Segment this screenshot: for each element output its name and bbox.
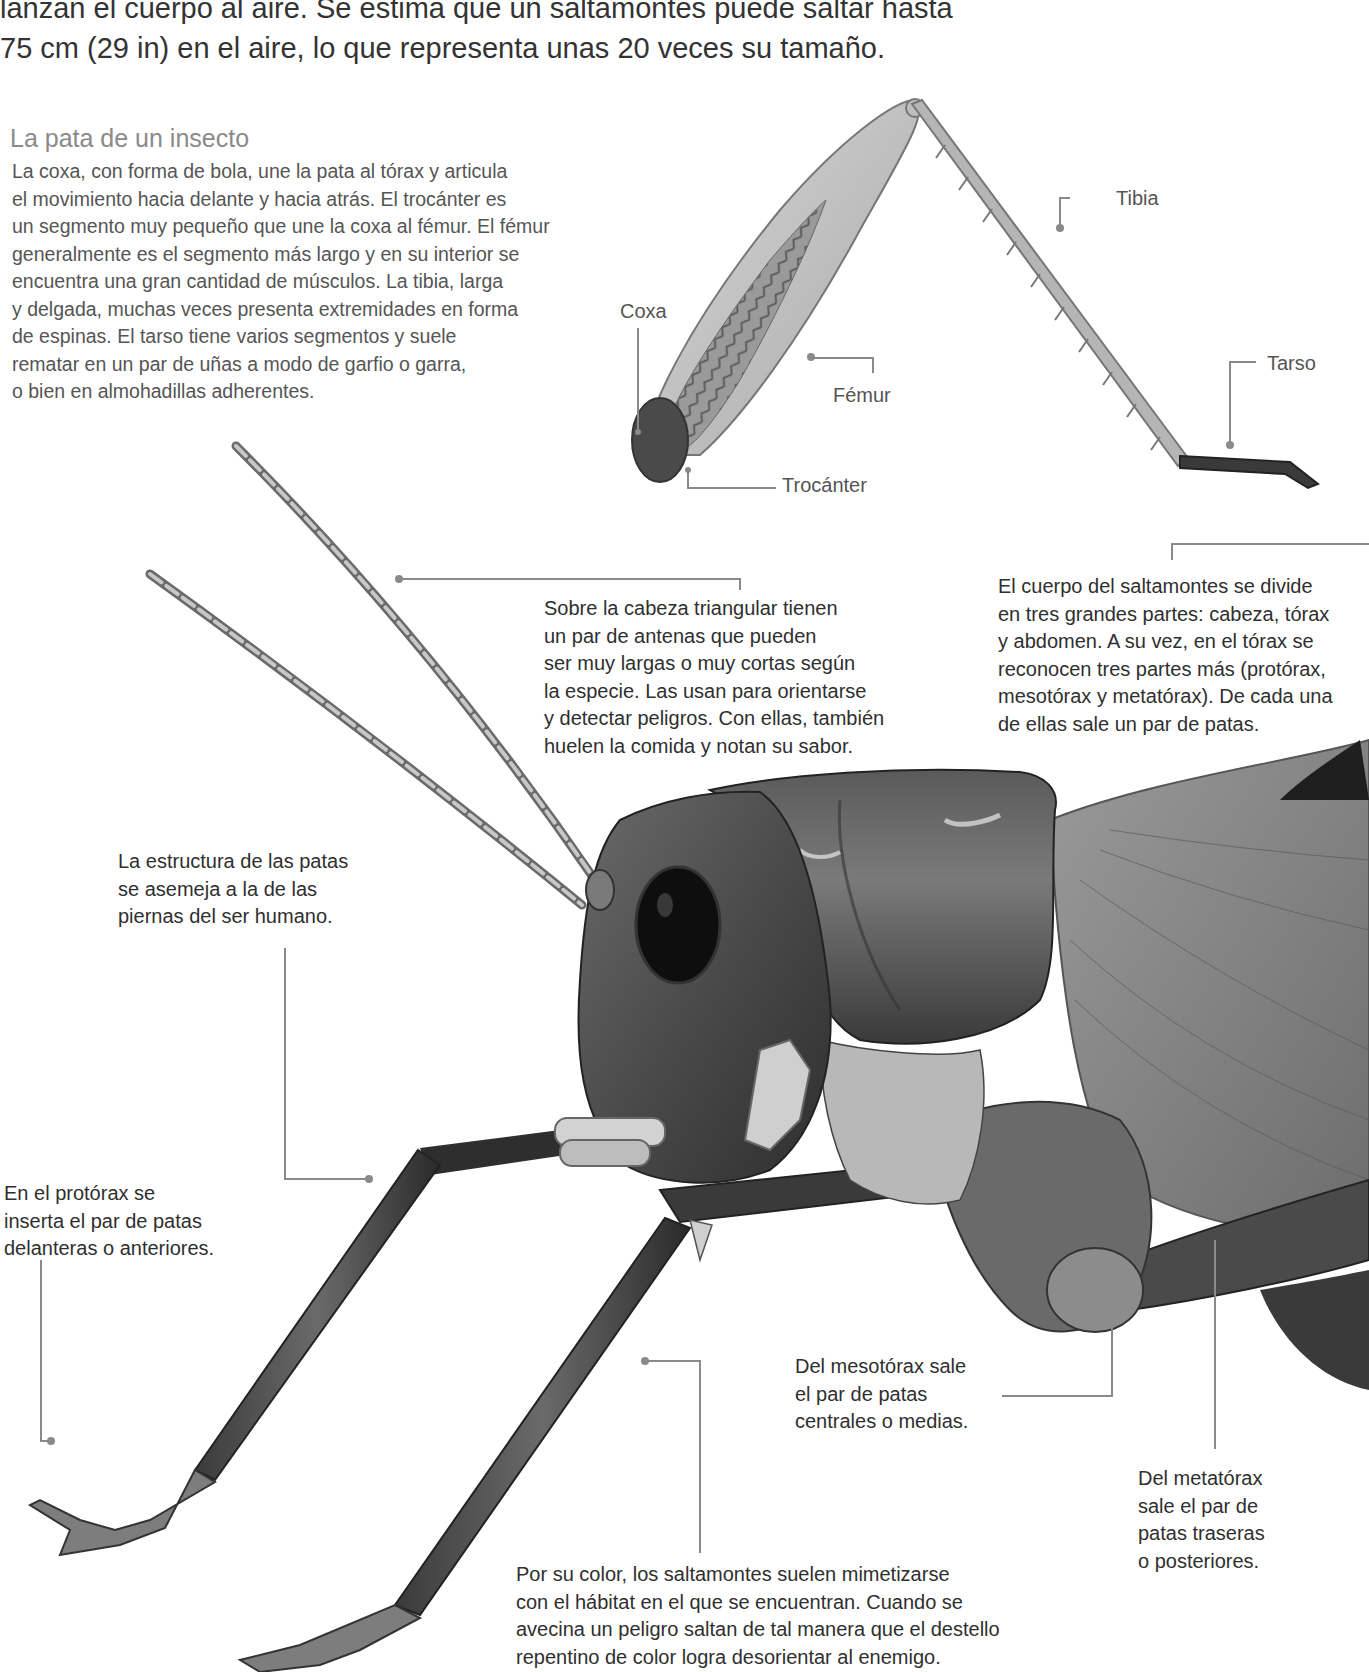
label-femur: Fémur xyxy=(833,384,891,407)
caption-mesotorax: Del mesotórax sale el par de patas centr… xyxy=(795,1353,968,1436)
leg-section-title: La pata de un insecto xyxy=(10,124,249,153)
antennae xyxy=(150,446,595,905)
caption-antenas: Sobre la cabeza triangular tienen un par… xyxy=(544,595,884,760)
caption-metatorax: Del metatórax sale el par de patas trase… xyxy=(1138,1465,1265,1575)
caption-cuerpo: El cuerpo del saltamontes se divide en t… xyxy=(998,573,1333,738)
caption-protorax: En el protórax se inserta el par de pata… xyxy=(4,1180,214,1263)
compound-eye xyxy=(636,867,720,983)
leg-section-body: La coxa, con forma de bola, une la pata … xyxy=(12,158,612,406)
insect-leg-diagram xyxy=(632,99,1318,488)
caption-estructura: La estructura de las patas se asemeja a … xyxy=(118,848,348,931)
label-trocanter: Trocánter xyxy=(782,474,867,497)
label-tarso: Tarso xyxy=(1267,352,1316,375)
label-coxa: Coxa xyxy=(620,300,667,323)
label-tibia: Tibia xyxy=(1116,187,1159,210)
intro-paragraph: lanzan el cuerpo al aire. Se estima que … xyxy=(0,0,1000,68)
caption-color: Por su color, los saltamontes suelen mim… xyxy=(516,1561,1000,1671)
